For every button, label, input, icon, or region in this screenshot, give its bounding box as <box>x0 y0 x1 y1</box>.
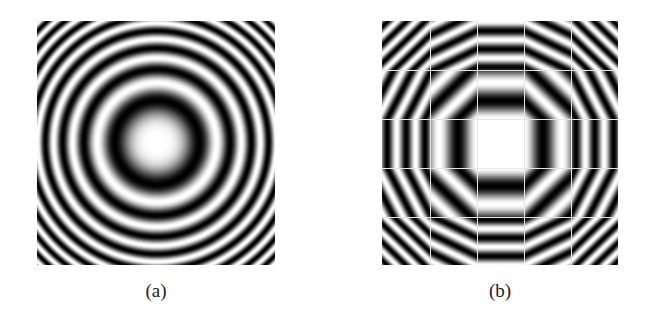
caption-b: (b) <box>470 279 530 303</box>
caption-a: (a) <box>126 279 186 303</box>
figure-panel-a-concentric-rings <box>37 21 275 265</box>
tiled-fringes-image <box>382 21 618 265</box>
concentric-rings-image <box>37 21 275 265</box>
figure-panel-b-tiled-approximation <box>382 21 618 265</box>
